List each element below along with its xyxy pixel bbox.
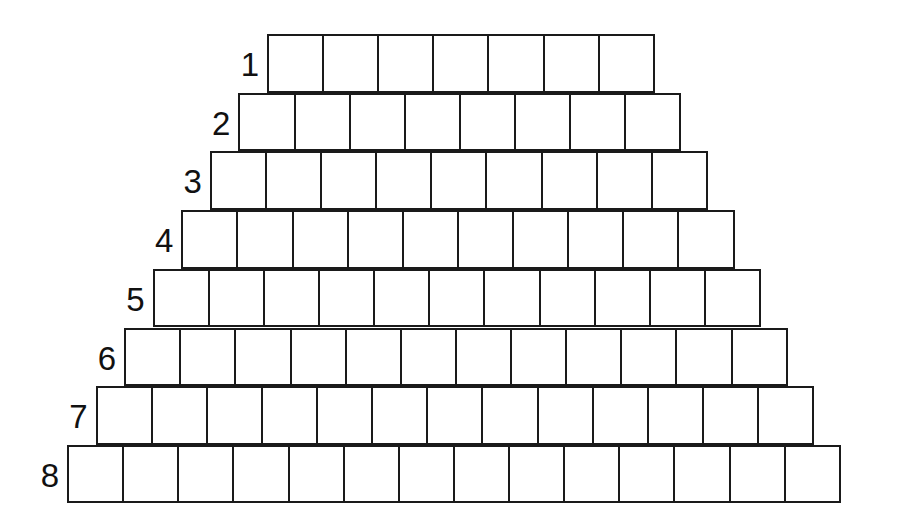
grid-cell: [565, 328, 622, 387]
grid-cell: [618, 445, 675, 504]
grid-cell: [455, 328, 512, 387]
grid-cell: [541, 151, 598, 210]
grid-cell: [622, 210, 679, 269]
row-label: 4: [133, 212, 173, 270]
grid-cell: [265, 151, 322, 210]
grid-cell: [598, 34, 655, 93]
grid-cell: [261, 386, 318, 445]
grid-cell: [677, 210, 734, 269]
grid-cell: [375, 151, 432, 210]
grid-cell: [206, 386, 263, 445]
grid-cell: [347, 210, 404, 269]
grid-cell: [402, 210, 459, 269]
grid-cell: [316, 386, 373, 445]
grid-cell: [510, 328, 567, 387]
grid-cell: [377, 34, 434, 93]
grid-cell: [236, 210, 293, 269]
grid-cell: [320, 151, 377, 210]
row-label: 8: [19, 447, 59, 505]
grid-cell: [151, 386, 208, 445]
grid-cell: [731, 328, 788, 387]
grid-cell: [371, 386, 428, 445]
grid-cell: [318, 269, 375, 328]
grid-cell: [263, 269, 320, 328]
grid-row: [238, 93, 679, 152]
grid-cell: [594, 269, 651, 328]
grid-cell: [757, 386, 814, 445]
row-label: 7: [48, 388, 88, 446]
grid-row: [210, 151, 706, 210]
grid-row: [181, 210, 732, 269]
grid-cell: [459, 93, 516, 152]
grid-cell: [457, 210, 514, 269]
grid-cell: [485, 151, 542, 210]
grid-cell: [729, 445, 786, 504]
grid-cell: [428, 269, 485, 328]
row-label: 3: [162, 153, 202, 211]
grid-cell: [210, 151, 267, 210]
grid-cell: [567, 210, 624, 269]
grid-cell: [345, 328, 402, 387]
grid-cell: [512, 210, 569, 269]
grid-cell: [704, 269, 761, 328]
grid-cell: [651, 151, 708, 210]
grid-cell: [124, 328, 181, 387]
grid-cell: [563, 445, 620, 504]
grid-row: [153, 269, 759, 328]
grid-cell: [294, 93, 351, 152]
grid-cell: [238, 93, 295, 152]
grid-cell: [292, 210, 349, 269]
grid-cell: [430, 151, 487, 210]
grid-cell: [432, 34, 489, 93]
grid-cell: [267, 34, 324, 93]
grid-cell: [398, 445, 455, 504]
grid-cell: [343, 445, 400, 504]
grid-cell: [373, 269, 430, 328]
grid-cell: [426, 386, 483, 445]
grid-cell: [153, 269, 210, 328]
grid-cell: [539, 269, 596, 328]
grid-row: [96, 386, 813, 445]
grid-cell: [508, 445, 565, 504]
row-label: 2: [190, 95, 230, 153]
grid-cell: [620, 328, 677, 387]
grid-row: [267, 34, 653, 93]
grid-cell: [784, 445, 841, 504]
grid-cell: [592, 386, 649, 445]
grid-cell: [514, 93, 571, 152]
grid-row: [124, 328, 786, 387]
grid-cell: [122, 445, 179, 504]
row-label: 1: [219, 36, 259, 94]
grid-row: [67, 445, 839, 504]
grid-cell: [453, 445, 510, 504]
grid-cell: [649, 269, 706, 328]
grid-cell: [702, 386, 759, 445]
grid-cell: [234, 328, 291, 387]
grid-cell: [673, 445, 730, 504]
grid-cell: [290, 328, 347, 387]
grid-cell: [481, 386, 538, 445]
grid-cell: [537, 386, 594, 445]
grid-cell: [208, 269, 265, 328]
grid-cell: [569, 93, 626, 152]
grid-cell: [322, 34, 379, 93]
grid-cell: [232, 445, 289, 504]
grid-cell: [177, 445, 234, 504]
grid-cell: [596, 151, 653, 210]
grid-cell: [181, 210, 238, 269]
grid-cell: [179, 328, 236, 387]
grid-cell: [96, 386, 153, 445]
grid-cell: [624, 93, 681, 152]
grid-cell: [288, 445, 345, 504]
row-label: 6: [76, 330, 116, 388]
grid-cell: [400, 328, 457, 387]
grid-cell: [647, 386, 704, 445]
grid-cell: [487, 34, 544, 93]
grid-cell: [67, 445, 124, 504]
staircase-grid-diagram: 12345678: [0, 0, 900, 529]
grid-cell: [543, 34, 600, 93]
grid-cell: [483, 269, 540, 328]
grid-cell: [404, 93, 461, 152]
grid-cell: [675, 328, 732, 387]
row-label: 5: [105, 271, 145, 329]
